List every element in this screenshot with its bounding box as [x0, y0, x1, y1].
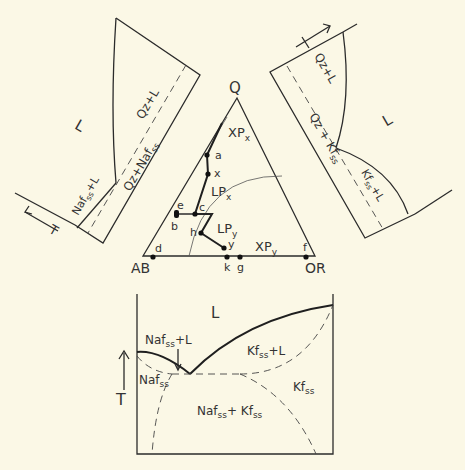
vertex-ab: AB	[131, 260, 150, 276]
label-point-h: h	[190, 226, 197, 239]
bottom-label-kf-l: Kfss+L	[247, 344, 286, 360]
vertex-q: Q	[229, 79, 241, 97]
left-label-l: L	[72, 116, 89, 136]
label-lpx: LPx	[211, 184, 232, 202]
bottom-label-naf-kf: Nafss+ Kfss	[197, 404, 263, 420]
left-panel-base	[15, 193, 75, 225]
point-c	[192, 211, 197, 216]
left-label-qz-naf: Qz+Nafss	[120, 138, 162, 195]
point-f	[303, 254, 308, 259]
point-y	[221, 245, 226, 250]
right-panel-outline	[270, 32, 415, 238]
label-point-g: g	[237, 261, 244, 274]
point-x	[205, 171, 210, 176]
right-panel-top	[343, 24, 357, 32]
label-point-d: d	[155, 242, 162, 255]
label-xpx: XPx	[228, 125, 251, 143]
left-t-arrow-head	[25, 206, 32, 214]
bottom-axis-t: T	[115, 390, 126, 409]
label-point-f: f	[303, 241, 308, 254]
label-point-b: b	[171, 220, 178, 233]
label-point-y: y	[228, 238, 235, 251]
label-lpy: LPy	[217, 221, 238, 239]
right-liquidus-qz	[336, 32, 346, 148]
point-k	[224, 254, 229, 259]
label-point-e: e	[177, 199, 184, 212]
right-label-qz-kf: Qz + Kfss	[305, 111, 346, 167]
point-g	[237, 254, 242, 259]
vertex-or: OR	[305, 260, 326, 276]
point-d	[150, 254, 155, 259]
label-point-c: c	[199, 201, 205, 214]
bottom-label-l: L	[211, 304, 220, 322]
label-xpy: XPy	[255, 239, 278, 257]
bottom-label-naf: Nafss	[139, 373, 169, 389]
right-t-arrow-shaft	[296, 26, 330, 47]
point-a	[204, 152, 209, 157]
left-binary-panel: T L Qz+L Qz+Nafss Nafss+L	[15, 18, 200, 243]
label-point-x: x	[214, 167, 221, 180]
bottom-label-kf: Kfss	[293, 380, 315, 396]
right-binary-panel: L Qz+L Qz + Kfss Kfss+L	[270, 24, 452, 238]
right-liquidus-kf	[336, 148, 408, 214]
bottom-binary-panel: T L Nafss+L Kfss+L Nafss Kfss Nafss+ Kfs…	[115, 294, 333, 454]
label-point-k: k	[224, 261, 231, 274]
right-label-l: L	[379, 110, 396, 130]
left-label-qz-l: Qz+L	[133, 86, 162, 121]
right-panel-base-ext	[415, 190, 452, 214]
right-label-kf-l: Kfss+L	[357, 167, 388, 205]
phase-diagram-figure: Q AB OR XPx LPx LPy XPy a x e b c h y d …	[0, 0, 465, 470]
bottom-liquidus-naf	[137, 352, 190, 374]
point-h	[198, 230, 203, 235]
label-point-a: a	[215, 149, 222, 162]
left-axis-t: T	[46, 221, 61, 238]
right-label-qz-l: Qz+L	[311, 51, 340, 86]
bottom-label-naf-l: Nafss+L	[145, 333, 192, 349]
left-label-naf-l: Nafss+L	[69, 173, 104, 218]
left-liquidus-qz	[113, 18, 116, 183]
